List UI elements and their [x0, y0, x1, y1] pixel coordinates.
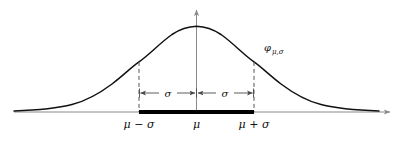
curve-name-symbol: φ — [264, 42, 271, 53]
x-tick-label-mu: μ — [193, 118, 200, 131]
sigma-span-label-right: σ — [222, 88, 230, 99]
curve-name-label: φ μ,σ — [264, 42, 284, 56]
sigma-span-label-left: σ — [165, 88, 173, 99]
curve-name-subscript: μ,σ — [272, 48, 284, 56]
normal-distribution-figure: σ σ φ μ,σ μ − σ μ μ + σ — [0, 0, 396, 141]
figure-canvas: σ σ φ μ,σ μ − σ μ μ + σ — [0, 0, 396, 141]
x-tick-label-mu-plus-sigma: μ + σ — [239, 118, 270, 131]
x-tick-label-mu-minus-sigma: μ − σ — [124, 118, 155, 131]
